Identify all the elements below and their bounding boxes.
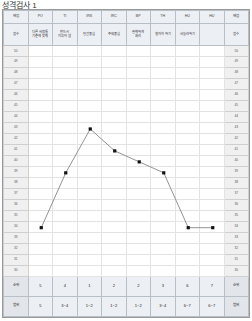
range-value-th: 3~4: [151, 296, 176, 316]
profile-table-body: 배점POTIIRSIRCBPTHHUHU배점점수다른 사람들기준에 맞춰반드시이…: [4, 11, 249, 317]
plot-cell: [126, 46, 151, 57]
scale-label-left: 37: [4, 188, 29, 199]
plot-cell: [53, 265, 78, 276]
plot-cell: [28, 254, 53, 265]
plot-cell: [151, 122, 176, 133]
profile-table: 배점POTIIRSIRCBPTHHUHU배점점수다른 사람들기준에 맞춰반드시이…: [3, 10, 249, 317]
header-code-row: 배점POTIIRSIRCBPTHHUHU배점: [4, 11, 249, 24]
column-code-th: TH: [151, 11, 176, 24]
scale-row: 3535: [4, 210, 249, 221]
column-name-bp: 완벽하게처리: [126, 24, 151, 46]
column-code-irs: IRS: [77, 11, 102, 24]
plot-cell: [102, 144, 127, 155]
plot-cell: [151, 199, 176, 210]
plot-cell: [77, 57, 102, 68]
plot-cell: [102, 232, 127, 243]
scale-label-left: 40: [4, 155, 29, 166]
column-code-ti: TI: [53, 11, 78, 24]
plot-cell: [77, 188, 102, 199]
range-value-bp: 1~2: [126, 296, 151, 316]
plot-cell: [28, 155, 53, 166]
scale-label-right: 38: [224, 177, 249, 188]
plot-cell: [126, 265, 151, 276]
plot-cell: [175, 112, 200, 123]
plot-cell: [200, 221, 225, 232]
scale-label-left: 48: [4, 68, 29, 79]
plot-cell: [151, 188, 176, 199]
column-name-po: 다른 사람들기준에 맞춰: [28, 24, 53, 46]
rank-value-th: 3: [151, 276, 176, 296]
plot-cell: [53, 177, 78, 188]
plot-cell: [126, 112, 151, 123]
plot-cell: [77, 133, 102, 144]
scale-label-right: 34: [224, 221, 249, 232]
scale-row: 4343: [4, 122, 249, 133]
plot-cell: [102, 210, 127, 221]
scale-row: 3939: [4, 166, 249, 177]
plot-cell: [102, 166, 127, 177]
plot-cell: [28, 210, 53, 221]
page-title: 성격검사 1: [2, 0, 37, 9]
range-value-hu2: 6~7: [200, 296, 225, 316]
plot-cell: [28, 122, 53, 133]
plot-cell: [126, 57, 151, 68]
rank-value-irs: 1: [77, 276, 102, 296]
plot-cell: [200, 188, 225, 199]
plot-cell: [53, 166, 78, 177]
scale-label-left: 35: [4, 210, 29, 221]
plot-cell: [102, 46, 127, 57]
scale-label-right: 46: [224, 90, 249, 101]
plot-cell: [77, 112, 102, 123]
scale-label-left: 49: [4, 57, 29, 68]
plot-cell: [102, 101, 127, 112]
plot-cell: [102, 57, 127, 68]
scale-label-right: 40: [224, 155, 249, 166]
plot-cell: [151, 133, 176, 144]
plot-cell: [175, 254, 200, 265]
scale-label-left: 50: [4, 46, 29, 57]
plot-cell: [151, 90, 176, 101]
plot-cell: [77, 166, 102, 177]
plot-cell: [200, 265, 225, 276]
scale-label-right: 43: [224, 122, 249, 133]
scale-label-left: 46: [4, 90, 29, 101]
plot-cell: [151, 243, 176, 254]
scale-row: 3434: [4, 221, 249, 232]
plot-cell: [175, 68, 200, 79]
scale-row: 4646: [4, 90, 249, 101]
plot-cell: [175, 144, 200, 155]
plot-cell: [53, 122, 78, 133]
plot-cell: [53, 232, 78, 243]
column-name-ti: 반드시이루어 냄: [53, 24, 78, 46]
scale-label-left: 33: [4, 232, 29, 243]
plot-cell: [126, 199, 151, 210]
scale-row: 3333: [4, 232, 249, 243]
scale-row: 4242: [4, 133, 249, 144]
plot-cell: [53, 221, 78, 232]
plot-cell: [175, 221, 200, 232]
scale-label-left: 38: [4, 177, 29, 188]
plot-cell: [126, 210, 151, 221]
plot-cell: [53, 144, 78, 155]
plot-cell: [77, 177, 102, 188]
plot-cell: [200, 232, 225, 243]
scale-label-left: 41: [4, 144, 29, 155]
column-code-hu2: HU: [200, 11, 225, 24]
scale-label-right: 39: [224, 166, 249, 177]
scale-label-left: 36: [4, 199, 29, 210]
scale-row: 4848: [4, 68, 249, 79]
plot-cell: [28, 166, 53, 177]
scale-label-left: 42: [4, 133, 29, 144]
corner-bottom-left: 점수: [4, 24, 29, 46]
plot-cell: [151, 101, 176, 112]
plot-cell: [175, 199, 200, 210]
plot-cell: [102, 177, 127, 188]
plot-cell: [53, 199, 78, 210]
plot-cell: [77, 46, 102, 57]
personality-test-profile-chart: 성격검사 1 배점POTIIRSIRCBPTHHUHU배점점수다른 사람들기준에…: [0, 0, 252, 321]
plot-cell: [53, 210, 78, 221]
rank-value-ti: 4: [53, 276, 78, 296]
plot-cell: [200, 46, 225, 57]
plot-cell: [126, 122, 151, 133]
range-row-label: 범위: [4, 296, 29, 316]
